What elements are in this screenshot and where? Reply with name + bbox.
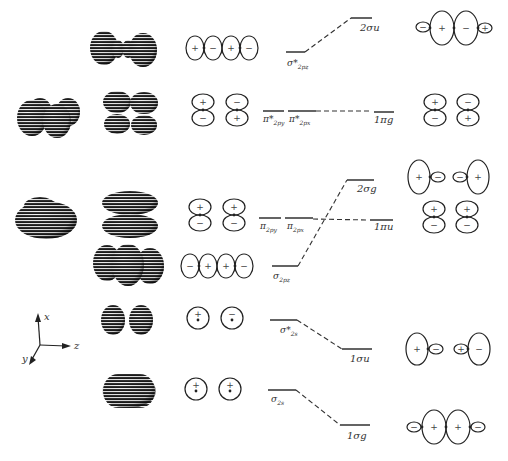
lobe-sign: + <box>227 43 235 53</box>
small-lobe: − <box>429 344 443 354</box>
lobe-sign: − <box>233 97 241 107</box>
orbital-sign: + <box>194 309 202 319</box>
lobe-sign: + <box>481 23 489 33</box>
label-1sigma-g: 1σg <box>347 430 367 441</box>
connector-sigma-star-2s <box>297 320 342 349</box>
p-lobe: + <box>199 254 217 278</box>
p-lobe-top: + <box>424 94 446 110</box>
node-dot <box>433 216 436 219</box>
node-dot <box>203 47 206 50</box>
node-dot <box>199 214 202 217</box>
node-dot <box>469 426 472 429</box>
sketch-pi-star-left: +− <box>192 94 214 126</box>
p-lobe-top: − <box>457 94 479 110</box>
p-lobe-bottom: − <box>223 215 245 231</box>
label-pi-star-2px: π*2px <box>288 114 311 127</box>
surface-sigma-star-2pz <box>90 31 157 67</box>
node-dot <box>233 214 236 217</box>
p-lobe: − <box>181 254 199 278</box>
label-sigma-star-2pz: σ*2pz <box>287 58 309 71</box>
lobe-sign: − <box>434 172 442 182</box>
lobe-sign: + <box>199 97 207 107</box>
p-lobe-top: + <box>192 94 214 110</box>
lobe-sign: − <box>199 113 207 123</box>
node-dot <box>195 390 198 393</box>
lobe-sign: − <box>456 172 464 182</box>
node-dot <box>234 265 237 268</box>
node-dot <box>231 319 234 322</box>
node-dot <box>197 319 200 322</box>
node-dot <box>429 176 432 179</box>
small-lobe: − <box>431 172 445 182</box>
mo-sketches: −+−++−−++−−++−+−+−+−−++− <box>406 11 492 444</box>
surface-pi-composite <box>15 197 77 239</box>
lobe-sign: + <box>431 97 439 107</box>
axis-x-label: x <box>44 311 50 322</box>
connector-sigma-star-2pz <box>305 18 351 52</box>
surface-sigma-2s <box>102 374 156 408</box>
node-dot <box>198 265 201 268</box>
lobe-sign: + <box>430 204 438 214</box>
big-lobe: − <box>468 333 490 365</box>
surface-pi-star <box>103 91 158 135</box>
p-lobe-top: − <box>226 94 248 110</box>
mo-2sigma-g: +−−+ <box>408 160 489 194</box>
coordinate-axes: x z y <box>21 311 80 365</box>
sketch-sigma-2s-right: + <box>219 378 241 400</box>
connector-sigma-2s <box>296 390 340 425</box>
node-dot <box>467 348 470 351</box>
sketch-sigma-2s-left: + <box>185 378 207 400</box>
axis-z-label: z <box>73 340 80 351</box>
p-lobe: + <box>217 254 235 278</box>
lobe-sign: + <box>454 422 462 432</box>
lobe-sign: − <box>230 218 238 228</box>
big-lobe: − <box>454 11 478 45</box>
lobe-sign: + <box>233 113 241 123</box>
node-dot <box>453 27 456 30</box>
p-lobe: − <box>235 254 253 278</box>
axis-y-label: y <box>21 353 28 364</box>
lobe-sign: − <box>419 22 427 32</box>
label-2sigma-u: 2σu <box>359 22 380 33</box>
lobe-sign: − <box>410 422 418 432</box>
big-lobe: + <box>408 160 430 194</box>
orbital-sign: + <box>192 380 200 390</box>
p-lobe-bottom: − <box>192 110 214 126</box>
connector-sigma-2pz <box>298 180 347 266</box>
p-lobe: + <box>186 36 204 60</box>
mo-1sigma-g: −++− <box>407 410 485 444</box>
sketch-pi-left: +− <box>189 199 211 231</box>
lobe-sign: + <box>191 43 199 53</box>
big-lobe: + <box>406 333 428 365</box>
level-labels: σ*2pz 2σu π*2py π*2px 1πg 2σg π2py π2px … <box>259 22 393 441</box>
node-dot <box>477 27 480 30</box>
p-lobe: + <box>222 36 240 60</box>
node-dot <box>445 426 448 429</box>
lobe-sign: − <box>432 344 440 354</box>
lobe-sign: + <box>464 113 472 123</box>
mo-1pi-u-right: +− <box>456 201 478 233</box>
lobe-sign: + <box>415 172 423 182</box>
big-lobe: + <box>446 410 470 444</box>
lobe-sign: − <box>475 344 483 354</box>
surface-sigma-star-2s <box>101 305 153 335</box>
lobe-sign: + <box>196 202 204 212</box>
lobe-sign: − <box>430 220 438 230</box>
node-dot <box>202 109 205 112</box>
local-orbital-sketches: +−+−+−−++−+−−++−+−++ <box>181 36 258 400</box>
p-lobe: − <box>240 36 258 60</box>
small-lobe: + <box>478 23 492 33</box>
lobe-sign: − <box>186 261 194 271</box>
label-1sigma-u: 1σu <box>350 353 370 364</box>
mo-1pi-g-left: +− <box>424 94 446 126</box>
surface-pi-star-composite <box>17 98 80 138</box>
mo-1pi-g-right: −+ <box>457 94 479 126</box>
small-lobe: − <box>416 22 430 32</box>
p-lobe-bottom: − <box>189 215 211 231</box>
label-1pi-g: 1πg <box>374 114 393 125</box>
p-lobe-bottom: − <box>424 110 446 126</box>
node-dot <box>466 216 469 219</box>
lobe-sign: − <box>463 220 471 230</box>
label-pi-2py: π2py <box>259 221 278 234</box>
lobe-sign: + <box>222 261 230 271</box>
